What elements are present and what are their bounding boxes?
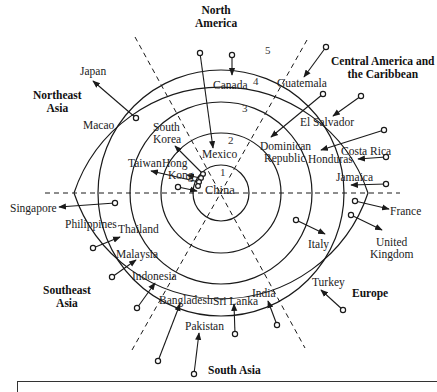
region-southeast-asia-line1: Southeast <box>43 284 91 297</box>
label-guatemala: Guatemala <box>277 77 327 89</box>
label-south-korea: South Korea <box>153 121 181 145</box>
arrow-japan <box>93 81 136 118</box>
label-el-salvador: El Salvador <box>300 116 354 128</box>
label-uk-line2: Kingdom <box>370 248 413 260</box>
arrow-bangladesh <box>158 304 180 361</box>
region-southeast-asia: Southeast Asia <box>43 284 91 310</box>
label-dominican-line1: Dominican <box>260 140 311 152</box>
region-northeast-asia: Northeast Asia <box>33 89 82 115</box>
ring-number-2: 2 <box>228 134 234 146</box>
label-south-korea-line1: South <box>153 121 181 133</box>
label-indonesia: Indonesia <box>132 270 177 282</box>
region-north-america: North America <box>195 4 237 30</box>
label-bangladesh: Bangladesh <box>159 294 213 306</box>
region-southeast-asia-line2: Asia <box>43 297 91 310</box>
label-hong-kong-line2: Kong <box>162 169 194 181</box>
label-japan: Japan <box>80 65 106 77</box>
label-france: France <box>390 205 421 217</box>
region-central-america-line2: the Caribbean <box>331 68 434 81</box>
arrow-sri-lanka <box>234 304 235 334</box>
arrow-tails <box>90 44 388 376</box>
arrow-united-kingdom <box>351 215 382 230</box>
region-central-america-line1: Central America and <box>331 55 434 68</box>
region-central-america-caribbean: Central America and the Caribbean <box>331 55 434 81</box>
region-north-america-line1: North <box>195 4 237 17</box>
arrow-italy <box>296 220 325 234</box>
ring-number-5: 5 <box>265 44 271 56</box>
label-mexico: Mexico <box>202 148 237 160</box>
label-philippines: Philippines <box>65 218 117 230</box>
label-canada: Canada <box>213 79 247 91</box>
caption-box-border <box>17 381 437 392</box>
ring-number-4: 4 <box>253 75 259 87</box>
label-uk-line1: United <box>370 236 413 248</box>
arrow-france <box>355 201 389 209</box>
arrow-jamaica <box>351 184 386 185</box>
label-taiwan: Taiwan <box>128 157 162 169</box>
label-pakistan: Pakistan <box>185 320 224 332</box>
label-dominican-republic: Dominican Republic <box>260 140 311 164</box>
label-macao: Macao <box>83 119 114 131</box>
arrow-turkey <box>321 290 343 310</box>
label-turkey: Turkey <box>312 276 345 288</box>
label-united-kingdom: United Kingdom <box>370 236 413 260</box>
region-north-america-line2: America <box>195 17 237 30</box>
label-sri-lanka: Sri Lanka <box>213 295 258 307</box>
label-malaysia: Malaysia <box>116 248 158 260</box>
arrow-mexico <box>200 53 213 148</box>
region-northeast-asia-line1: Northeast <box>33 89 82 102</box>
label-dominican-line2: Republic <box>260 152 311 164</box>
label-china: China <box>205 184 235 196</box>
label-costa-rica: Costa Rica <box>341 145 391 157</box>
arrow-guatemala <box>304 47 326 77</box>
region-northeast-asia-line2: Asia <box>33 102 82 115</box>
label-singapore: Singapore <box>10 202 57 214</box>
arrows <box>59 47 389 374</box>
label-south-korea-line2: Korea <box>153 133 181 145</box>
label-jamaica: Jamaica <box>336 171 373 183</box>
arrow-costa-rica <box>358 157 386 159</box>
arrow-pakistan <box>194 333 199 374</box>
label-italy: Italy <box>308 238 329 250</box>
ring-number-1: 1 <box>220 166 226 178</box>
label-hong-kong: Hong Kong <box>162 157 194 181</box>
label-thailand: Thailand <box>118 223 159 235</box>
region-south-asia: South Asia <box>208 364 261 377</box>
arrow-singapore <box>59 203 115 207</box>
arrow-el-salvador <box>333 96 361 116</box>
ring-number-3: 3 <box>242 102 248 114</box>
label-hong-kong-line1: Hong <box>162 157 194 169</box>
region-europe: Europe <box>352 287 388 300</box>
